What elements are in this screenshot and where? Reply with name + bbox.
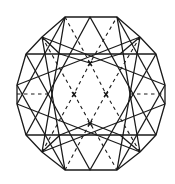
- marker-top: [88, 61, 92, 66]
- marker-right: [104, 92, 108, 97]
- inner-markers: [72, 61, 108, 126]
- marker-left: [72, 92, 76, 97]
- gem-facet-diagram: [0, 0, 175, 184]
